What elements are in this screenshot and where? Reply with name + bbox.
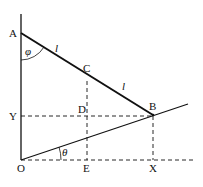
- geometry-diagram: A C B D Y O E X l l φ θ: [0, 0, 203, 187]
- label-theta: θ: [62, 146, 68, 158]
- theta-arc: [59, 147, 61, 160]
- point-b-dot: [152, 114, 155, 117]
- label-d: D: [78, 103, 86, 115]
- label-x: X: [149, 162, 157, 174]
- label-l-cb: l: [122, 80, 125, 92]
- label-b: B: [149, 100, 156, 112]
- label-e: E: [83, 162, 90, 174]
- label-o: O: [17, 162, 25, 174]
- line-ob: [21, 104, 188, 160]
- label-phi: φ: [25, 45, 31, 57]
- label-y: Y: [9, 110, 17, 122]
- label-c: C: [83, 62, 90, 74]
- label-l-ac: l: [55, 42, 58, 54]
- label-a: A: [9, 27, 17, 39]
